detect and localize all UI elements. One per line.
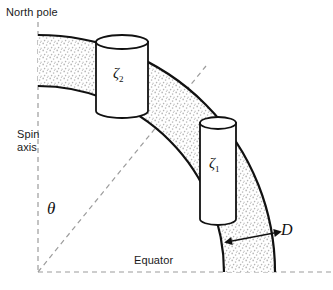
label-theta-angle: θ <box>47 199 55 219</box>
shell-band-group <box>38 35 275 272</box>
label-equator: Equator <box>134 254 173 267</box>
shell-band-fill <box>38 35 275 272</box>
label-north-pole: North pole <box>6 6 58 19</box>
cylinder-zeta1-top <box>200 117 236 129</box>
label-spin-axis: Spin axis <box>17 128 39 154</box>
diagram-svg <box>0 0 333 290</box>
label-thickness-D: D <box>281 221 293 239</box>
label-zeta1: ζ1 <box>209 155 220 174</box>
cylinder-zeta2-top <box>96 35 148 49</box>
figure-canvas: North pole Spin axis Equator θ D ζ2 ζ1 <box>0 0 333 290</box>
label-zeta2: ζ2 <box>113 65 124 84</box>
label-zeta2-subscript: 2 <box>119 74 124 84</box>
label-zeta1-subscript: 1 <box>215 164 220 174</box>
cylinder-zeta1-body <box>200 123 236 225</box>
